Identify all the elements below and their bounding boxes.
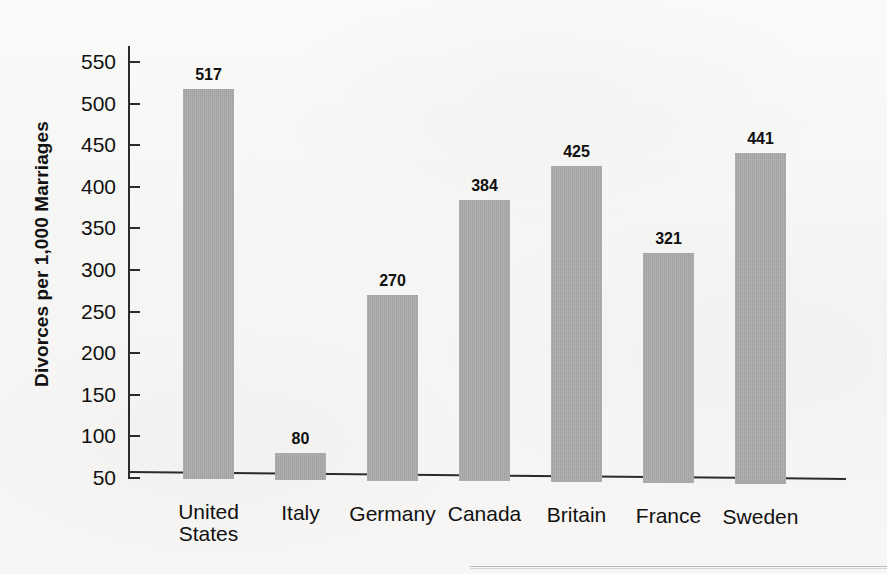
y-tick-label: 300 (48, 259, 116, 280)
y-tick-mark (129, 227, 140, 229)
y-tick-mark (129, 269, 140, 271)
bar (551, 166, 602, 482)
scan-edge-artifact (470, 566, 887, 567)
bar (735, 153, 786, 484)
bar-value-label: 321 (629, 231, 709, 247)
y-tick-label: 550 (48, 51, 116, 72)
x-category-label: Sweden (701, 506, 821, 529)
y-tick-mark (129, 186, 140, 188)
y-tick-label: 250 (48, 301, 116, 322)
bar-value-label: 441 (721, 131, 801, 147)
y-tick-label: 350 (48, 217, 116, 238)
y-tick-mark (129, 352, 140, 354)
y-tick-mark (129, 435, 140, 437)
y-tick-label: 50 (48, 467, 116, 488)
bar-value-label: 270 (353, 273, 433, 289)
bar (367, 295, 418, 481)
y-tick-label: 400 (48, 176, 116, 197)
y-tick-label: 500 (48, 93, 116, 114)
y-tick-mark (129, 394, 140, 396)
y-tick-mark (129, 61, 140, 63)
bar (459, 200, 510, 481)
bar-value-label: 384 (445, 178, 525, 194)
bar (183, 89, 234, 478)
bar (643, 253, 694, 484)
bar-chart-plot: Divorces per 1,000 Marriages 55050045040… (0, 0, 887, 574)
bar (275, 453, 326, 480)
y-tick-mark (129, 103, 140, 105)
y-tick-mark (129, 311, 140, 313)
y-tick-mark (129, 477, 140, 479)
bar-value-label: 517 (169, 67, 249, 83)
bar-value-label: 425 (537, 144, 617, 160)
y-tick-mark (129, 144, 140, 146)
chart-page: Divorces per 1,000 Marriages 55050045040… (0, 0, 887, 574)
y-tick-label: 450 (48, 134, 116, 155)
y-tick-label: 150 (48, 384, 116, 405)
y-axis-line (128, 46, 130, 479)
y-tick-label: 100 (48, 425, 116, 446)
scan-edge-artifact-secondary (470, 568, 887, 569)
bar-value-label: 80 (261, 431, 341, 447)
y-tick-label: 200 (48, 342, 116, 363)
